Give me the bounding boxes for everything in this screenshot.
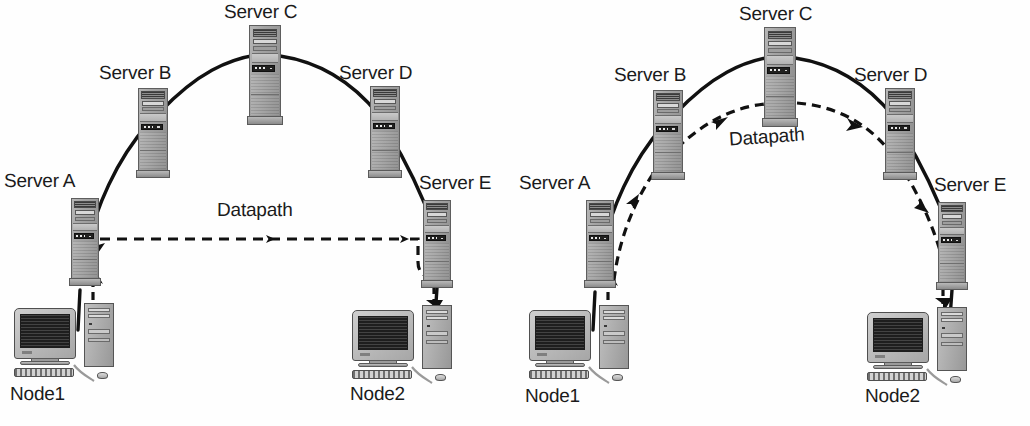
server-e-drive-bay xyxy=(426,235,446,241)
server-b-band xyxy=(140,113,165,122)
server-e-band xyxy=(425,225,449,234)
server-d-vent xyxy=(373,89,396,96)
server-d-base xyxy=(883,172,917,180)
server-c-led xyxy=(785,70,788,72)
server-b-drive-bay xyxy=(656,126,678,132)
node2-computer[interactable] xyxy=(352,305,452,387)
server-b-slot-1 xyxy=(142,101,164,106)
server-e-chassis xyxy=(938,202,966,283)
server-c-slot-1 xyxy=(768,41,792,46)
label-server-c: Server C xyxy=(224,3,297,22)
server-d-seam xyxy=(887,152,913,153)
server-c-chassis xyxy=(249,25,281,117)
server-a-slot-1 xyxy=(75,210,96,215)
server-e-vent xyxy=(426,203,448,210)
server-b-drive-bay xyxy=(141,124,163,130)
server-c-slot-2 xyxy=(768,48,792,53)
label-server-a: Server A xyxy=(519,174,590,193)
server-e-chassis xyxy=(423,200,451,281)
server-e-slot-2 xyxy=(942,221,963,225)
server-b-slot-1 xyxy=(657,103,679,108)
node2-cables xyxy=(867,307,967,389)
label-node2: Node2 xyxy=(350,385,405,404)
server-c-seam xyxy=(251,94,278,95)
server-c-band xyxy=(767,55,794,65)
label-node1: Node1 xyxy=(10,385,65,404)
server-tower-a[interactable] xyxy=(584,200,616,288)
server-c-drive-bay xyxy=(767,67,790,74)
datapath-serverc-serverd xyxy=(797,103,887,148)
server-c-band xyxy=(252,53,279,63)
server-e-band xyxy=(940,227,964,236)
server-c-base xyxy=(247,116,283,125)
server-tower-a[interactable] xyxy=(69,198,101,286)
server-b-vent xyxy=(656,93,679,100)
server-d-slot-2 xyxy=(374,106,396,110)
diagram-panel-right: Server A Server B Server C Server D Serv… xyxy=(515,0,1030,426)
server-b-vent xyxy=(141,91,164,98)
server-tower-e[interactable] xyxy=(936,202,968,290)
server-c-vent xyxy=(768,31,793,39)
diagram-panel-left: Server A Server B Server C Server D Serv… xyxy=(0,0,515,426)
server-tower-c[interactable] xyxy=(247,25,283,125)
node1-computer[interactable] xyxy=(529,305,629,387)
label-server-e: Server E xyxy=(419,174,491,193)
server-b-band xyxy=(655,115,680,124)
server-a-vent xyxy=(74,201,96,208)
server-c-seam xyxy=(766,96,793,97)
label-server-a: Server A xyxy=(4,172,75,191)
server-c-chassis xyxy=(764,27,796,119)
server-tower-b[interactable] xyxy=(651,90,685,180)
server-e-led xyxy=(956,240,959,242)
server-e-base xyxy=(936,282,968,290)
server-a-slot-1 xyxy=(590,212,611,217)
server-b-chassis xyxy=(653,90,683,173)
node2-cables xyxy=(352,305,452,387)
server-d-band xyxy=(372,112,397,121)
server-a-drive-bay xyxy=(589,235,609,241)
label-datapath: Datapath xyxy=(217,201,293,220)
server-b-seam xyxy=(655,152,681,153)
server-c-slot-2 xyxy=(253,46,277,51)
server-a-vent xyxy=(589,203,611,210)
node1-cables xyxy=(529,305,629,387)
label-server-b: Server B xyxy=(614,66,686,85)
server-a-band xyxy=(73,223,97,232)
server-b-base xyxy=(651,172,685,180)
label-node2: Node2 xyxy=(865,387,920,406)
server-d-drive-bay xyxy=(888,125,910,131)
server-tower-e[interactable] xyxy=(421,200,453,288)
server-b-led xyxy=(672,128,675,130)
node1-computer[interactable] xyxy=(14,303,114,385)
server-d-seam xyxy=(372,150,398,151)
server-c-slot-1 xyxy=(253,39,277,44)
server-e-led xyxy=(441,238,444,240)
server-b-slot-2 xyxy=(142,107,164,111)
label-server-c: Server C xyxy=(739,5,812,24)
diagram-canvas: Server A Server B Server C Server D Serv… xyxy=(0,0,1030,426)
server-a-seam xyxy=(588,261,612,262)
server-b-base xyxy=(136,170,170,178)
server-d-slot-1 xyxy=(889,101,911,106)
server-tower-d[interactable] xyxy=(883,88,917,180)
server-e-seam xyxy=(425,261,449,262)
server-tower-c[interactable] xyxy=(762,27,798,127)
server-tower-d[interactable] xyxy=(368,86,402,178)
server-tower-b[interactable] xyxy=(136,88,170,178)
server-e-slot-2 xyxy=(427,219,448,223)
server-a-drive-bay xyxy=(74,233,94,239)
server-a-band xyxy=(588,225,612,234)
label-server-e: Server E xyxy=(934,176,1006,195)
node2-computer[interactable] xyxy=(867,307,967,389)
server-d-slot-2 xyxy=(889,108,911,112)
server-e-drive-bay xyxy=(941,237,961,243)
server-e-slot-1 xyxy=(427,212,448,217)
server-c-vent xyxy=(253,29,278,37)
server-d-slot-1 xyxy=(374,99,396,104)
label-node1: Node1 xyxy=(525,387,580,406)
server-d-chassis xyxy=(370,86,400,171)
server-a-led xyxy=(604,238,607,240)
server-a-chassis xyxy=(71,198,99,279)
server-d-band xyxy=(887,114,912,123)
server-b-seam xyxy=(140,150,166,151)
